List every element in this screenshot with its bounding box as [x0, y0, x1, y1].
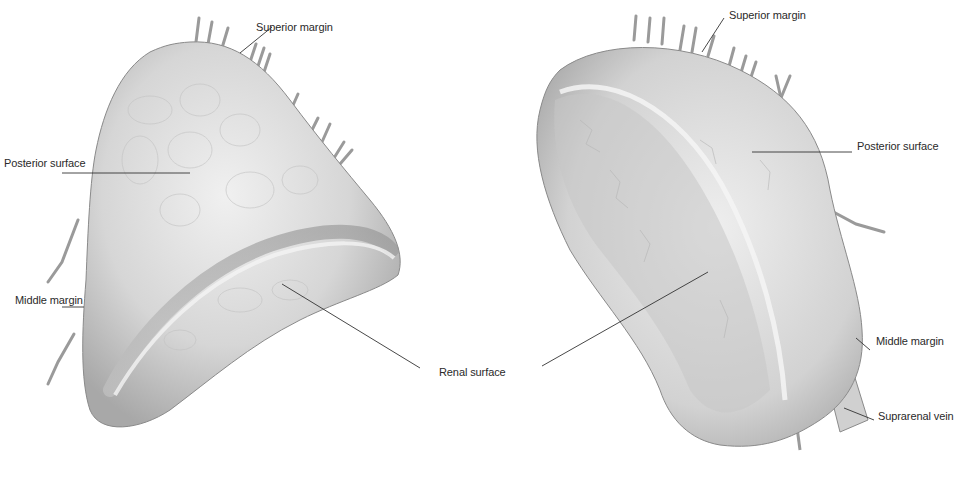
right-gland	[537, 16, 884, 450]
gland-illustrations	[0, 0, 967, 479]
label-renal-surface: Renal surface	[439, 366, 506, 378]
label-right-middle-margin: Middle margin	[876, 335, 944, 347]
label-left-posterior-surface: Posterior surface	[4, 157, 85, 169]
leader-right-superior-margin	[702, 18, 724, 52]
label-right-superior-margin: Superior margin	[729, 9, 806, 21]
label-left-middle-margin: Middle margin	[15, 294, 83, 306]
label-right-posterior-surface: Posterior surface	[857, 140, 938, 152]
label-suprarenal-vein: Suprarenal vein	[878, 410, 954, 422]
left-gland	[48, 18, 400, 427]
diagram-canvas: Superior margin Posterior surface Middle…	[0, 0, 967, 479]
label-left-superior-margin: Superior margin	[256, 21, 333, 33]
